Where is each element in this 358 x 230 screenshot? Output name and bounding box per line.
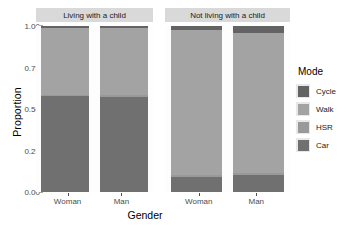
legend-title: Mode	[298, 66, 358, 77]
legend-item-cycle[interactable]: Cycle	[296, 83, 358, 99]
legend-swatch-car-icon	[298, 140, 309, 151]
legend-swatch-cycle-icon	[298, 86, 309, 97]
legend-key-box	[296, 120, 310, 134]
legend-label: Car	[316, 141, 329, 150]
legend-swatch-hsr-icon	[298, 122, 309, 133]
facet-strip-not-living-with-child: Not living with a child	[165, 8, 290, 22]
legend-item-car[interactable]: Car	[296, 137, 358, 153]
y-axis-tick-label: 1.00	[6, 22, 40, 31]
legend-label: Walk	[316, 105, 333, 114]
legend-key-box	[296, 102, 310, 116]
bar-segment-car	[171, 177, 222, 192]
x-axis-tick-label-man: Man	[114, 197, 130, 206]
facet-strip-label: Living with a child	[63, 11, 126, 20]
legend-label: HSR	[316, 123, 333, 132]
bar-man	[100, 26, 148, 192]
x-axis-tick-label-woman: Woman	[54, 197, 81, 206]
x-axis-tick-mark	[121, 193, 122, 196]
x-axis-tick-mark	[256, 193, 257, 196]
y-axis: Proportion 0.000.250.500.751.00	[0, 0, 40, 230]
legend-key-box	[296, 138, 310, 152]
bar-segment-car	[41, 96, 89, 192]
x-axis-title: Gender	[0, 209, 290, 221]
y-axis-tick-label: 0.75	[6, 63, 40, 72]
legend-label: Cycle	[316, 87, 336, 96]
facet-strip-label: Not living with a child	[190, 11, 265, 20]
bar-segment-car	[100, 97, 148, 192]
x-axis-tick-mark	[68, 193, 69, 196]
bar-segment-walk	[171, 30, 222, 176]
stacked-bar-chart: Proportion 0.000.250.500.751.00 Living w…	[0, 0, 358, 230]
bar-segment-walk	[41, 28, 89, 95]
x-axis-tick-mark	[199, 193, 200, 196]
y-axis-tick-label: 0.25	[6, 146, 40, 155]
legend-key-box	[296, 84, 310, 98]
bar-segment-car	[233, 175, 284, 192]
bar-segment-walk	[233, 33, 284, 173]
x-axis-tick-label-woman: Woman	[185, 197, 212, 206]
y-axis-tick-label: 0.50	[6, 105, 40, 114]
panel-not-living-with-child	[165, 26, 290, 192]
legend: Mode CycleWalkHSRCar	[296, 66, 358, 155]
panel-living-with-child	[36, 26, 153, 192]
legend-item-walk[interactable]: Walk	[296, 101, 358, 117]
bar-segment-cycle	[233, 26, 284, 33]
bar-woman	[171, 26, 222, 192]
bar-man	[233, 26, 284, 192]
bar-woman	[41, 26, 89, 192]
y-axis-tick-label: 0.00	[6, 188, 40, 197]
facet-strip-living-with-child: Living with a child	[36, 8, 153, 22]
legend-item-hsr[interactable]: HSR	[296, 119, 358, 135]
bar-segment-walk	[100, 28, 148, 95]
x-axis-tick-label-man: Man	[248, 197, 264, 206]
legend-swatch-walk-icon	[298, 104, 309, 115]
